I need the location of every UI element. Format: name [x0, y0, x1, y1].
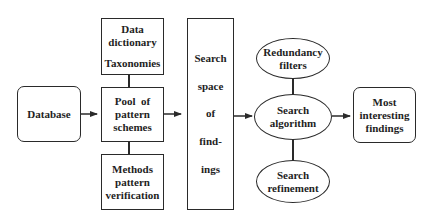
search-refinement-line1: Search [277, 169, 309, 182]
data-dictionary-node: Data dictionary Taxonomies [101, 18, 164, 75]
search-algorithm-line2: algorithm [270, 117, 316, 130]
search-algorithm-node: Search algorithm [254, 94, 332, 140]
methods-line2: pattern [115, 176, 150, 189]
data-dictionary-line2: dictionary [108, 36, 156, 49]
findings-line2: interesting [360, 109, 410, 122]
knowledge-discovery-flow-diagram: Database Data dictionary Taxonomies Pool… [0, 0, 434, 222]
pool-line3: schemes [113, 121, 152, 134]
redundancy-line2: filters [279, 59, 306, 72]
pool-line2: pattern [115, 108, 150, 121]
search-space-line4: find- [199, 135, 222, 148]
pattern-pool-node: Pool of pattern schemes [101, 87, 164, 142]
taxonomies-label: Taxonomies [105, 57, 161, 70]
search-refinement-line2: refinement [267, 182, 318, 195]
search-algorithm-line1: Search [277, 104, 309, 117]
findings-node: Most interesting findings [353, 87, 416, 143]
database-label: Database [27, 108, 70, 121]
redundancy-line1: Redundancy [263, 46, 322, 59]
pool-line1: Pool of [115, 95, 150, 108]
methods-line3: verification [106, 189, 160, 202]
database-node: Database [17, 86, 81, 142]
search-refinement-node: Search refinement [256, 160, 330, 203]
methods-verification-node: Methods pattern verification [101, 154, 164, 210]
search-space-node: Search space of find- ings [187, 18, 234, 210]
search-space-line2: space [198, 80, 224, 93]
redundancy-filters-node: Redundancy filters [256, 38, 330, 79]
findings-line3: findings [366, 122, 404, 135]
search-space-line5: ings [201, 163, 220, 176]
methods-line1: Methods [112, 163, 153, 176]
search-space-line1: Search [194, 52, 226, 65]
data-dictionary-line1: Data [121, 23, 144, 36]
search-space-line3: of [206, 107, 215, 120]
findings-line1: Most [373, 96, 397, 109]
